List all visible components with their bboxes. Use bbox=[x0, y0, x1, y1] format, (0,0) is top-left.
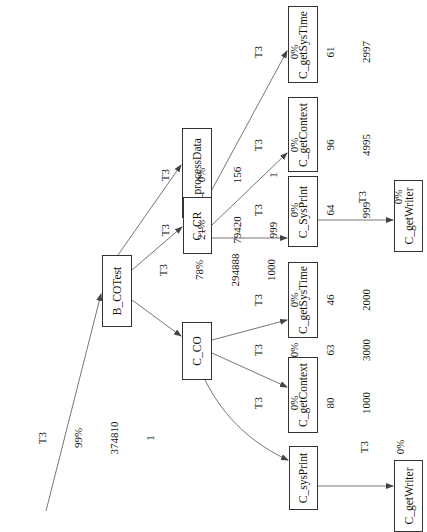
edge-label-c-getsystime-cr: T3 0% 61 2997 bbox=[228, 26, 276, 78]
node-b-cotest[interactable]: B_COTest bbox=[102, 255, 132, 327]
node-c-sysprint-co[interactable]: C_sysPrint bbox=[289, 446, 318, 510]
edge-label-c-getsystime-co: T3 0% 46 2000 bbox=[228, 274, 276, 326]
edge-thread: T3 bbox=[159, 149, 171, 201]
edge-thread: T3 bbox=[356, 171, 368, 223]
edge-percent: 0% bbox=[288, 274, 300, 326]
edge-thread: T3 bbox=[252, 377, 264, 429]
edge-time: 374810 bbox=[108, 412, 120, 464]
edge-percent: 0% bbox=[394, 421, 406, 473]
edge-percent: 0% bbox=[288, 119, 300, 171]
edge-calls: 3000 bbox=[360, 324, 372, 376]
call-graph: B_COTest B_processData C_CR C_CO C_SysPr… bbox=[0, 0, 427, 532]
edge-time: 61 bbox=[324, 26, 336, 78]
edge-percent: 0% bbox=[195, 149, 207, 201]
edge-thread: T3 bbox=[252, 119, 264, 171]
node-label: C_CO bbox=[191, 336, 203, 365]
node-label: B_COTest bbox=[111, 267, 123, 315]
edge-label-c-co: T3 78% 294888 1000 bbox=[133, 244, 181, 296]
edge-thread: T3 bbox=[358, 421, 370, 473]
edge-percent: 0% bbox=[392, 171, 404, 223]
edge-calls: 2000 bbox=[360, 274, 372, 326]
edge-thread: T3 bbox=[252, 274, 264, 326]
edge-label-c-sysprint: T3 0% 64 999 bbox=[228, 184, 276, 236]
edge-time: 96 bbox=[324, 119, 336, 171]
edge-label-c-getcontext-co: T3 0% 63 3000 bbox=[228, 324, 276, 376]
edge-percent: 0% bbox=[288, 184, 300, 236]
edge-thread: T3 bbox=[252, 324, 264, 376]
node-c-co[interactable]: C_CO bbox=[182, 322, 212, 380]
edge-percent: 0% bbox=[288, 377, 300, 429]
edge-label-c-getcontext-cr: T3 0% 96 4995 bbox=[228, 119, 276, 171]
edge-label-b-processdata: T3 0% 156 1 bbox=[135, 149, 183, 201]
edge-label-c-getwriter-cr: T3 0% 16 999 bbox=[332, 171, 380, 223]
node-label: C_getWriter bbox=[403, 467, 415, 524]
edge-label-root: T3 99% 374810 1 bbox=[12, 412, 60, 464]
edge-time: 63 bbox=[324, 324, 336, 376]
edge-thread: T3 bbox=[157, 244, 169, 296]
edge-percent: 99% bbox=[72, 412, 84, 464]
edge-thread: T3 bbox=[252, 184, 264, 236]
edge-thread: T3 bbox=[36, 412, 48, 464]
edge-label-c-getwriter-co: T3 0% 16 1000 bbox=[334, 421, 382, 473]
edge-calls: 1 bbox=[144, 412, 156, 464]
edge-percent: 78% bbox=[193, 244, 205, 296]
edge-time: 46 bbox=[324, 274, 336, 326]
edge-b-cotest-to-c-co bbox=[132, 300, 181, 336]
edge-thread: T3 bbox=[252, 26, 264, 78]
edge-label-c-sysprint-co: T3 0% 80 1000 bbox=[228, 377, 276, 429]
node-label: C_sysPrint bbox=[298, 453, 310, 504]
edge-calls: 4995 bbox=[360, 119, 372, 171]
edge-percent: 0% bbox=[288, 26, 300, 78]
edge-root-to-b-cotest bbox=[46, 294, 101, 511]
edge-percent: 0% bbox=[288, 324, 300, 376]
edge-calls: 2997 bbox=[360, 26, 372, 78]
